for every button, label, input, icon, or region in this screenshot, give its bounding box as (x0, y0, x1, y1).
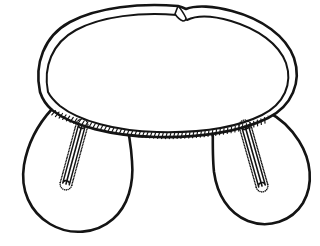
figure-canvas: Line drawing of a brimmed cap body with … (0, 0, 320, 246)
crown-band-group (38, 5, 296, 137)
line-drawing-svg: Line drawing of a brimmed cap body with … (0, 0, 320, 246)
